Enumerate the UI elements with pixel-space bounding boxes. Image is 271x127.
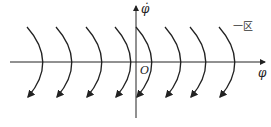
zone-label: 一区 bbox=[233, 18, 253, 33]
phase-plane-diagram: φ̇ φ O 一区 bbox=[0, 0, 271, 127]
x-axis-label: φ bbox=[258, 66, 266, 80]
y-axis-label: φ̇ bbox=[141, 2, 149, 16]
origin-label: O bbox=[140, 64, 149, 77]
phase-plane-svg bbox=[0, 0, 271, 127]
